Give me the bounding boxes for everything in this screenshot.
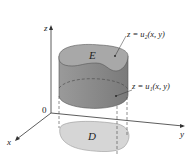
diagram-canvas: z y x 0 E D z = u₂(x, y) z = u₁(x, y) [0,0,195,158]
lower-surface-label: z = u₁(x, y) [131,81,170,91]
triple-integral-diagram: z y x 0 E D z = u₂(x, y) z = u₁(x, y) [0,0,195,158]
x-axis-arrow [15,136,20,141]
y-axis-arrow [180,124,185,128]
solid-e-label: E [88,49,96,61]
z-axis-arrow [49,25,53,30]
x-axis-label: x [6,137,11,147]
upper-surface-label: z = u₂(x, y) [126,29,165,39]
y-axis-label: y [179,129,184,139]
x-axis [17,113,51,139]
lower-point [115,95,117,97]
region-d-label: D [87,130,96,142]
z-axis-label: z [43,23,48,33]
upper-point [114,55,116,57]
origin-label: 0 [42,105,47,115]
